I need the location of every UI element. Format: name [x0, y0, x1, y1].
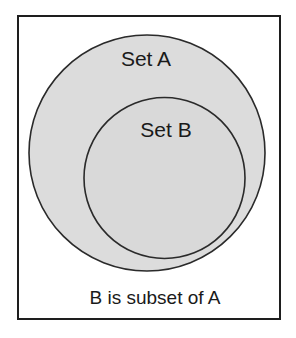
- venn-diagram: Set A Set B B is subset of A: [0, 0, 296, 338]
- set-b-label: Set B: [140, 118, 191, 141]
- set-a-label: Set A: [121, 47, 171, 70]
- diagram-caption: B is subset of A: [90, 287, 221, 308]
